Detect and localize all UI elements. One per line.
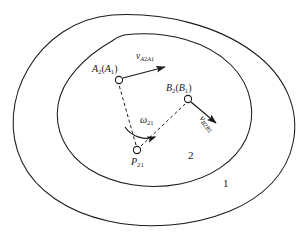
velocity-vector-a xyxy=(123,67,165,78)
label-point-p: P21 xyxy=(131,157,144,167)
radius-line-p-to-a xyxy=(119,85,136,145)
label-velocity-a: vA2A1 xyxy=(136,52,154,62)
point-marker-a xyxy=(115,76,122,83)
label-body-2: 2 xyxy=(188,150,194,161)
label-angular-velocity-sub: 21 xyxy=(147,119,154,126)
label-point-a: A2(A1) xyxy=(92,64,118,74)
label-point-b: B2(B1) xyxy=(166,83,192,93)
label-velocity-a-sub: A2A1 xyxy=(140,55,154,62)
figure-canvas: A2(A1) B2(B1) P21 vA2A1 vB2B1 ω21 2 1 xyxy=(0,0,308,242)
body-2-outline xyxy=(57,34,251,187)
label-point-a-sub: 2 xyxy=(98,68,101,75)
label-point-a-paren-sub: 1 xyxy=(111,68,114,75)
label-angular-velocity: ω21 xyxy=(140,115,154,125)
label-body-1: 1 xyxy=(223,178,229,189)
point-marker-p xyxy=(133,146,140,153)
label-point-b-paren-sub: 1 xyxy=(185,87,188,94)
label-point-p-sub: 21 xyxy=(137,161,144,168)
body-1-outline xyxy=(13,15,295,226)
point-marker-b xyxy=(184,95,191,102)
label-point-b-sub: 2 xyxy=(172,87,175,94)
kinematics-diagram-svg xyxy=(0,0,308,242)
